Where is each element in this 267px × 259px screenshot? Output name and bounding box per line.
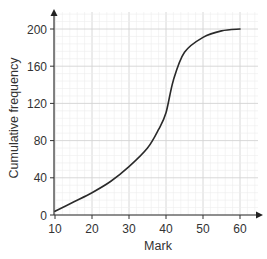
y-tick-label: 120 [27, 97, 47, 111]
x-ticks: 102030405060 [48, 215, 247, 236]
y-tick-label: 160 [27, 60, 47, 74]
y-axis-arrow-icon [51, 9, 58, 16]
y-tick-label: 200 [27, 23, 47, 37]
y-tick-label: 40 [34, 171, 48, 185]
y-ticks: 04080120160200 [27, 23, 54, 223]
x-axis-arrow-icon [256, 212, 263, 219]
x-tick-label: 20 [85, 222, 99, 236]
axes [51, 9, 264, 219]
x-tick-label: 10 [48, 222, 62, 236]
x-tick-label: 60 [233, 222, 247, 236]
cumulative-frequency-curve [55, 29, 240, 211]
x-axis-title: Mark [144, 239, 173, 253]
y-axis-title: Cumulative frequency [7, 57, 21, 179]
grid [54, 12, 258, 215]
cumulative-frequency-chart: 102030405060 04080120160200 Mark Cumulat… [0, 0, 267, 259]
x-tick-label: 40 [159, 222, 173, 236]
y-tick-label: 0 [40, 209, 47, 223]
x-tick-label: 30 [122, 222, 136, 236]
y-tick-label: 80 [34, 134, 48, 148]
x-tick-label: 50 [196, 222, 210, 236]
